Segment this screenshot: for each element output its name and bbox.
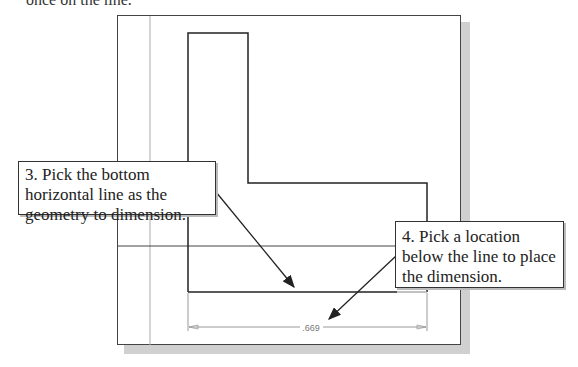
arrow-step-4 [329, 256, 396, 319]
l-profile[interactable] [188, 33, 427, 292]
dimension-value[interactable]: .669 [302, 323, 320, 333]
callout-step-3-text: 3. Pick the bottom horizontal line as th… [25, 165, 186, 224]
callout-step-4: 4. Pick a location below the line to pla… [395, 221, 564, 288]
callout-step-4-text: 4. Pick a location below the line to pla… [402, 227, 556, 286]
arrow-step-3 [216, 192, 294, 287]
callout-step-3: 3. Pick the bottom horizontal line as th… [18, 161, 216, 215]
